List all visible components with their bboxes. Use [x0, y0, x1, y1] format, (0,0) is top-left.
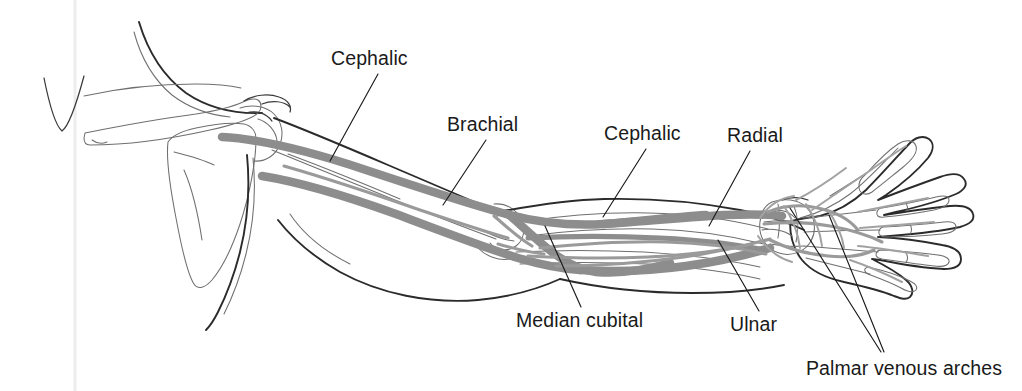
label-brachial: Brachial — [447, 113, 518, 135]
label-palmar-venous-arches: Palmar venous arches — [806, 357, 1002, 379]
lunate — [762, 229, 792, 236]
label-median-cubital: Median cubital — [516, 309, 643, 331]
acromion-inner — [262, 102, 290, 107]
vein-group — [222, 137, 934, 282]
ring-phalanges — [876, 250, 949, 266]
label-cephalic-forearm: Cephalic — [604, 122, 681, 144]
scapula-ridge — [184, 170, 202, 240]
anatomical-figure: Cephalic Brachial Cephalic Radial Median… — [0, 0, 1022, 391]
rib-outer — [139, 22, 262, 113]
index-joint — [906, 204, 908, 211]
scapula-lateral-border — [206, 155, 248, 330]
sternum-notch — [44, 76, 84, 131]
upper-limb-vein-diagram: Cephalic Brachial Cephalic Radial Median… — [0, 0, 1022, 391]
thorax-group — [44, 22, 291, 330]
label-radial: Radial — [727, 124, 783, 146]
label-ulnar: Ulnar — [730, 313, 778, 335]
thumb-accessory-vein — [796, 168, 846, 200]
scapular-spine — [174, 152, 214, 165]
leader-cephalic-upper — [330, 74, 378, 161]
humeral-head — [240, 106, 282, 161]
clavicle-detail — [92, 140, 107, 143]
arm-skeleton-group — [272, 118, 804, 301]
metacarpal-3 — [804, 230, 880, 232]
palmar-arch-mid — [764, 223, 882, 242]
cephalic-vein-forearm — [604, 214, 782, 224]
digital-vein-middle — [860, 222, 934, 228]
digital-vein-thumb — [812, 146, 906, 210]
arm-lower-contour-inner — [290, 214, 350, 264]
leader-brachial — [443, 140, 486, 205]
middle-joint — [910, 225, 912, 234]
ring-joint — [906, 253, 908, 262]
leader-cephalic-forearm — [603, 149, 646, 217]
label-cephalic-upper: Cephalic — [331, 47, 408, 69]
forearm-inferior-contour — [560, 279, 784, 293]
scapula — [167, 123, 256, 287]
